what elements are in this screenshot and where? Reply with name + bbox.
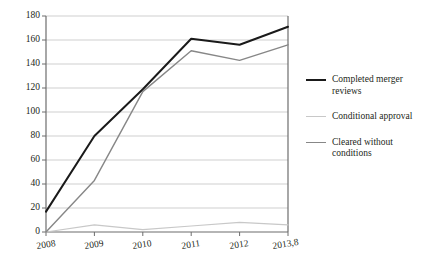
y-axis-tick-label: 0 — [8, 227, 40, 237]
y-axis-tick-label: 120 — [8, 83, 40, 93]
y-axis-tick-label: 100 — [8, 107, 40, 117]
legend-entry: Completed merger reviews — [306, 74, 434, 97]
y-axis-tick-label: 180 — [8, 11, 40, 21]
legend-line-swatch-icon — [306, 79, 326, 81]
legend-entry: Conditional approval — [306, 111, 434, 123]
legend-line-swatch-icon — [306, 142, 326, 143]
series-line-2 — [46, 45, 288, 232]
chart-legend: Completed merger reviewsConditional appr… — [306, 74, 434, 174]
legend-label: Conditional approval — [332, 111, 412, 121]
legend-label: Completed merger reviews — [332, 74, 403, 96]
y-axis-tick-label: 20 — [8, 203, 40, 213]
legend-line-swatch-icon — [306, 116, 326, 117]
series-line-1 — [46, 222, 288, 232]
legend-label: Cleared without conditions — [332, 137, 393, 159]
y-axis-tick-label: 80 — [8, 131, 40, 141]
legend-entry: Cleared without conditions — [306, 137, 434, 160]
y-axis-tick-label: 140 — [8, 59, 40, 69]
y-axis-tick-label: 40 — [8, 179, 40, 189]
chart-figure: 180160140120100806040200 200820092010201… — [0, 0, 436, 265]
y-axis-tick-label: 160 — [8, 35, 40, 45]
y-axis-tick-label: 60 — [8, 155, 40, 165]
